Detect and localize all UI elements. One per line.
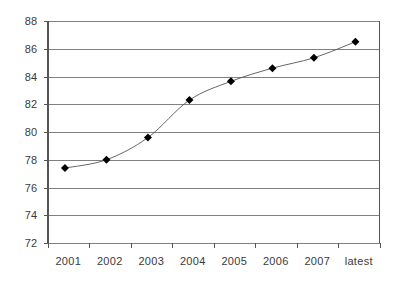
y-tick-label: 74 (8, 210, 38, 221)
x-tick-label: 2001 (55, 256, 81, 267)
data-point-marker (144, 134, 152, 142)
y-tick-label: 78 (8, 155, 38, 166)
y-axis-ticks (44, 22, 48, 244)
gridlines (48, 22, 380, 244)
x-tick-label: 2004 (180, 256, 206, 267)
y-tick-label: 76 (8, 183, 38, 194)
y-tick-label: 72 (8, 238, 38, 249)
data-point-marker (310, 54, 318, 62)
data-point-marker (351, 38, 359, 46)
line-chart: 727476788082848688 200120022003200420052… (0, 0, 406, 283)
y-tick-label: 84 (8, 72, 38, 83)
data-point-marker (61, 164, 69, 172)
data-point-marker (268, 64, 276, 72)
y-tick-label: 88 (8, 16, 38, 27)
y-tick-label: 80 (8, 127, 38, 138)
x-tick-label: 2006 (263, 256, 289, 267)
y-tick-label: 86 (8, 44, 38, 55)
data-point-marker (227, 77, 235, 85)
x-tick-label: latest (345, 256, 373, 267)
data-point-marker (102, 156, 110, 164)
plot-area (0, 0, 406, 283)
x-tick-label: 2005 (221, 256, 247, 267)
x-tick-label: 2003 (138, 256, 164, 267)
y-tick-label: 82 (8, 99, 38, 110)
data-point-marker (185, 96, 193, 104)
x-tick-label: 2007 (304, 256, 330, 267)
x-tick-label: 2002 (97, 256, 123, 267)
